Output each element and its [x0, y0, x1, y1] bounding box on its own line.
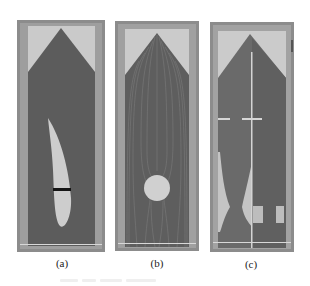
panel-a-image: [17, 20, 105, 252]
panel-a: [17, 20, 105, 252]
notch-right: [276, 206, 284, 223]
notch-left: [253, 206, 263, 223]
cylinder-obstacle: [144, 175, 170, 201]
panel-b-label: (b): [142, 257, 172, 269]
panel-c: [210, 22, 294, 252]
slit: [53, 188, 71, 191]
panel-a-label: (a): [47, 257, 77, 269]
panel-c-image: [210, 22, 294, 252]
panel-b-image: [115, 21, 199, 251]
panel-b: [115, 21, 199, 251]
figure-caption: [60, 277, 250, 283]
panel-c-label: (c): [236, 258, 266, 270]
center-line: [251, 52, 253, 248]
figure: (a): [0, 0, 310, 286]
